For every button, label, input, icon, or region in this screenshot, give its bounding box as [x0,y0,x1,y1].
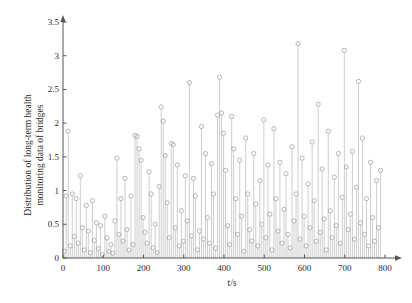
data-point-marker [244,136,248,140]
data-point-marker [193,194,197,198]
data-point-marker [262,118,266,122]
data-point-marker [306,182,310,186]
data-point-marker [370,215,374,219]
data-point-marker [246,192,250,196]
data-point-marker [312,199,316,203]
data-point-marker [183,174,187,178]
data-point-marker [364,197,368,201]
data-point-marker [82,248,86,252]
data-point-marker [64,194,68,198]
data-point-marker [125,228,129,232]
data-point-marker [238,158,242,162]
data-point-marker [356,79,360,83]
data-point-marker [308,226,312,230]
data-point-marker [352,237,356,241]
data-point-marker [103,214,107,218]
data-point-marker [318,230,322,234]
data-point-marker [316,102,320,106]
data-point-marker [280,241,284,245]
data-point-marker [228,242,232,246]
data-point-marker [139,158,143,162]
data-point-marker [286,232,290,236]
data-point-marker [121,239,125,243]
x-tick-label: 800 [378,263,392,273]
data-point-marker [109,242,113,246]
data-point-marker [302,214,306,218]
data-point-marker [105,236,109,240]
data-point-marker [185,219,189,223]
data-point-marker [68,244,72,248]
data-point-marker [298,237,302,241]
data-point-marker [236,232,240,236]
data-point-marker [250,239,254,243]
data-point-marker [157,184,161,188]
data-point-marker [145,241,149,245]
data-point-marker [123,176,127,180]
data-point-marker [205,215,209,219]
data-point-marker [209,162,213,166]
data-point-marker [368,160,372,164]
data-point-marker [226,224,230,228]
data-point-marker [66,129,70,133]
data-point-marker [211,192,215,196]
data-point-marker [314,239,318,243]
y-tick-label: 2 [55,118,60,128]
data-point-marker [201,237,205,241]
data-point-marker [252,151,256,155]
data-point-marker [127,248,131,252]
data-point-marker [115,156,119,160]
data-point-marker [346,228,350,232]
data-point-marker [254,202,258,206]
data-point-marker [264,236,268,240]
data-point-marker [219,111,223,115]
data-point-marker [165,201,169,205]
y-axis-arrow-icon [60,15,65,22]
data-point-marker [78,174,82,178]
data-point-marker [147,170,151,174]
data-point-marker [332,175,336,179]
data-point-marker [234,197,238,201]
data-point-marker [288,246,292,250]
y-axis-ticks: 00.511.522.533.5 [48,17,67,263]
data-point-marker [161,119,165,123]
y-tick-label: 3 [55,51,60,61]
y-tick-label: 0.5 [48,219,60,229]
data-point-marker [294,192,298,196]
data-point-marker [213,246,217,250]
data-point-marker [278,160,282,164]
data-point-marker [272,126,276,130]
data-point-marker [328,209,332,213]
data-point-marker [376,226,380,230]
x-tick-label: 400 [217,263,231,273]
data-point-marker [310,140,314,144]
data-point-marker [360,136,364,140]
data-point-marker [92,238,96,242]
y-axis-label-line1: Distribution of long-term health [23,94,33,216]
data-point-marker [266,163,270,167]
y-axis-label-line2: monitoring data of bridges [35,104,45,205]
data-point-marker [256,244,260,248]
x-axis-arrow-icon [395,255,402,260]
data-point-marker [330,236,334,240]
data-point-marker [292,219,296,223]
data-point-marker [300,156,304,160]
y-tick-label: 1 [55,186,60,196]
data-point-marker [86,229,90,233]
x-tick-label: 0 [61,263,66,273]
data-point-marker [96,246,100,250]
y-axis-label: Distribution of long-term health monitor… [23,94,45,216]
data-point-marker [107,249,111,253]
data-point-marker [336,151,340,155]
data-point-marker [111,251,115,255]
data-point-marker [151,246,155,250]
data-point-marker [187,81,191,85]
data-point-marker [338,241,342,245]
data-point-marker [324,248,328,252]
data-point-marker [153,222,157,226]
data-point-marker [189,234,193,238]
data-point-marker [258,178,262,182]
x-tick-label: 700 [338,263,352,273]
data-point-marker [113,219,117,223]
data-point-marker [181,239,185,243]
data-point-marker [344,165,348,169]
